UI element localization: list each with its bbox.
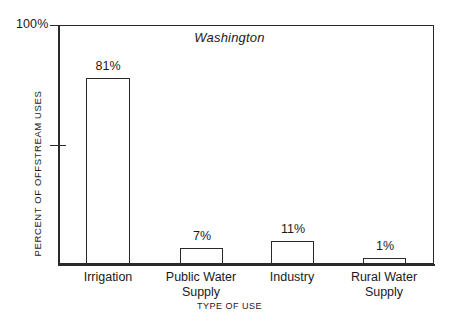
chart-title: Washington [0,30,459,45]
y-tick-100 [50,25,59,26]
y-axis-title: PERCENT OF OFFSTREAM USES [32,74,43,274]
category-label-irrigation: Irrigation [58,270,158,285]
category-label-public-water-supply: Public Water Supply [151,270,251,300]
x-axis-title: TYPE OF USE [0,301,459,311]
category-label-line1: Rural Water [334,270,434,285]
bar-chart: 100% Washington PERCENT OF OFFSTREAM USE… [0,0,459,324]
x-axis-line [58,264,435,266]
bar-value-irrigation: 81% [78,59,138,73]
y-tick-50 [50,145,66,146]
category-label-rural-water-supply: Rural Water Supply [334,270,434,300]
category-label-line2: Supply [334,285,434,300]
bar-public-water-supply [180,248,223,264]
bar-value-rural-water-supply: 1% [355,239,415,253]
category-label-line1: Public Water [151,270,251,285]
category-label-line2: Supply [151,285,251,300]
bar-irrigation [86,78,130,264]
bar-industry [271,241,314,264]
y-tick-label-100: 100% [16,17,48,31]
bar-value-industry: 11% [263,222,323,236]
category-label-line1: Irrigation [58,270,158,285]
bar-value-public-water-supply: 7% [172,229,232,243]
category-label-industry: Industry [242,270,342,285]
category-label-line1: Industry [242,270,342,285]
bar-rural-water-supply [363,258,406,264]
